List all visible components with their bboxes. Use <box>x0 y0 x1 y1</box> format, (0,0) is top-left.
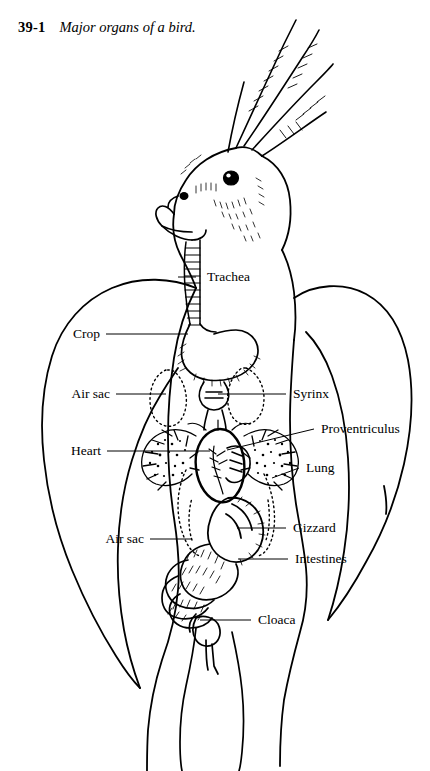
organ-label-air-sac: Air sac <box>71 387 110 401</box>
crest-feather-barbs <box>249 44 325 138</box>
organ-label-air-sac: Air sac <box>105 532 144 546</box>
organ-label-proventriculus: Proventriculus <box>321 422 400 436</box>
organ-label-trachea: Trachea <box>207 270 250 284</box>
organ-label-crop: Crop <box>73 327 100 341</box>
bird-anatomy-figure <box>0 0 430 771</box>
bird-anatomy-illustration <box>0 0 430 771</box>
beak <box>156 196 206 240</box>
figure-caption: 39-1Major organs of a bird. <box>18 20 196 35</box>
organ-label-lung: Lung <box>306 461 335 475</box>
body-outline <box>147 214 307 771</box>
intestines-hatching <box>168 550 224 622</box>
nostril <box>180 192 189 200</box>
bird-head <box>174 147 291 250</box>
lower-body-legs <box>180 628 244 771</box>
air-sac-lower-left <box>178 470 200 556</box>
lung-stipple <box>149 439 291 477</box>
organ-label-gizzard: Gizzard <box>293 521 336 535</box>
proventriculus <box>226 446 250 483</box>
crop <box>181 324 258 381</box>
right-wing <box>294 286 411 620</box>
leader-proventriculus <box>227 429 314 450</box>
gizzard <box>208 498 263 562</box>
air-sac-upper-right <box>228 368 264 424</box>
crest-feathers-group <box>228 20 333 156</box>
leader-lines-group <box>106 277 314 620</box>
head-feather-texture <box>181 155 264 241</box>
organ-label-heart: Heart <box>71 444 101 458</box>
leader-lung <box>272 468 299 478</box>
organ-label-syrinx: Syrinx <box>293 387 329 401</box>
organ-label-cloaca: Cloaca <box>258 613 295 627</box>
heart-vessels <box>188 420 250 494</box>
figure-title: Major organs of a bird. <box>59 19 195 35</box>
heart <box>196 429 245 502</box>
organ-label-intestines: Intestines <box>295 552 347 566</box>
eye <box>224 171 239 185</box>
figure-number: 39-1 <box>18 19 45 35</box>
syrinx <box>199 382 229 430</box>
